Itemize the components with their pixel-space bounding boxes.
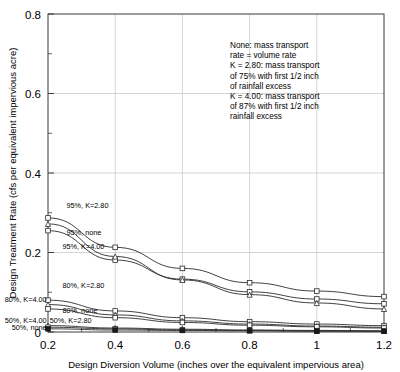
series-marker	[247, 329, 252, 334]
x-tick-label: 0.2	[40, 339, 56, 351]
series-marker	[180, 320, 185, 325]
series-marker	[247, 280, 252, 285]
series-marker	[382, 301, 387, 306]
series-marker	[315, 329, 320, 334]
series-inline-label: 80%, none	[62, 306, 97, 315]
design-treatment-rate-chart: 00.20.40.60.80.20.40.60.811.2 95%, K=2.8…	[0, 0, 400, 372]
y-tick-label: 0.6	[25, 88, 41, 100]
series-inline-label: 95%, K=4.00	[62, 242, 104, 251]
series-marker	[180, 266, 185, 271]
y-tick-label: 0.2	[25, 247, 41, 259]
series-inline-label: 95%, K=2.80	[66, 201, 108, 210]
x-tick-label: 0.4	[107, 339, 124, 351]
x-tick-label: 0.6	[174, 339, 190, 351]
annotation-line: rainfall excess	[230, 112, 282, 121]
y-tick-label: 0.8	[25, 9, 41, 21]
y-axis-title: Design Treatment Rate (cfs per equivalen…	[7, 48, 18, 299]
annotation-line: of 75% with first 1/2 inch	[230, 72, 319, 81]
annotation-line: K = 4.00: mass transport	[230, 92, 320, 101]
series-marker	[113, 245, 118, 250]
series-inline-label: 50%, none	[12, 323, 47, 332]
annotation-line: None: mass transport	[230, 41, 309, 50]
annotation-line: of rainfall excess	[230, 82, 291, 91]
x-tick-label: 1.2	[376, 339, 392, 351]
annotation-line: K = 2.80: mass transport	[230, 61, 320, 70]
y-tick-label: 0.4	[25, 168, 42, 180]
series-marker	[113, 315, 118, 320]
series-inline-label: 80%, K=2.80	[62, 281, 104, 290]
annotation-line: of 87% with first 1/2 inch	[230, 102, 319, 111]
series-inline-label: 50%, K=2.80	[50, 316, 92, 325]
series-marker	[382, 294, 387, 299]
series-marker	[46, 307, 51, 312]
series-marker	[46, 216, 51, 221]
series-marker	[180, 328, 185, 333]
series-inline-label: 95%, none	[66, 228, 101, 237]
x-axis-title: Design Diversion Volume (inches over the…	[68, 359, 364, 370]
series-marker	[382, 329, 387, 334]
chart-figure: 00.20.40.60.80.20.40.60.811.2 95%, K=2.8…	[0, 0, 400, 372]
annotation-line: rate = volume rate	[230, 51, 297, 60]
x-tick-label: 1	[314, 339, 320, 351]
x-tick-label: 0.8	[242, 339, 258, 351]
series-marker	[315, 289, 320, 294]
series-marker	[113, 328, 118, 333]
series-marker	[46, 228, 51, 233]
